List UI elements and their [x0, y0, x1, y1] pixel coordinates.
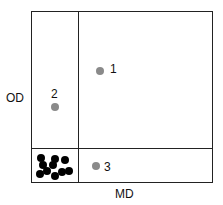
cluster-point [65, 167, 73, 175]
highlight-point-1 [96, 67, 104, 75]
point-label-1: 1 [110, 63, 117, 75]
horizontal-divider [31, 148, 213, 149]
vertical-divider [78, 11, 79, 183]
cluster-point [61, 156, 69, 164]
x-axis-label: MD [115, 188, 134, 200]
point-label-2: 2 [51, 88, 58, 100]
y-axis-label: OD [6, 92, 24, 104]
cluster-point [43, 167, 51, 175]
highlight-point-2 [51, 103, 59, 111]
highlight-point-3 [92, 162, 100, 170]
point-label-3: 3 [104, 161, 111, 173]
